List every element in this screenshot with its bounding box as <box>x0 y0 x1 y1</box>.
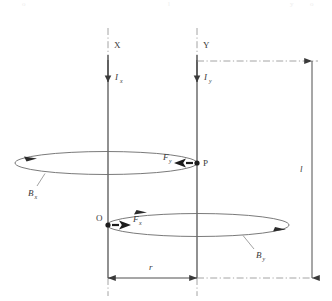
parallel-conductors-diagram: o l y o X Y I x I y B x <box>0 0 332 301</box>
dimension-r: r <box>108 262 197 278</box>
current-label-x: I x <box>114 72 123 84</box>
current-label-y: I y <box>203 72 212 84</box>
force-arrow-fx: F x <box>112 214 142 230</box>
force-arrow-fy: F y <box>162 152 193 168</box>
field-symbol-bx: B <box>28 188 34 198</box>
point-p-marker <box>194 160 199 165</box>
force-subscript-fy: y <box>168 158 172 164</box>
force-symbol-fx: F <box>132 214 139 224</box>
bx-direction-arrowhead <box>24 157 37 162</box>
field-subscript-bx: x <box>34 194 38 200</box>
force-subscript-fx: x <box>138 220 142 226</box>
current-symbol-x: I <box>114 72 119 82</box>
dimension-label-l: l <box>300 164 303 174</box>
dimension-l: l <box>300 61 312 278</box>
svg-text:l: l <box>168 0 170 8</box>
svg-text:o: o <box>22 0 26 8</box>
current-subscript-x: x <box>119 78 123 84</box>
current-subscript-y: y <box>208 78 212 84</box>
current-symbol-y: I <box>203 72 208 82</box>
fy-arrowhead <box>174 158 186 167</box>
svg-text:o: o <box>310 0 314 8</box>
by-leader-line <box>243 236 254 250</box>
force-symbol-fy: F <box>162 152 169 162</box>
conductor-label-y: Y <box>203 40 210 50</box>
conductor-label-x: X <box>114 40 121 50</box>
field-subscript-by: y <box>262 256 266 262</box>
fx-arrowhead <box>119 220 131 229</box>
physics-diagram-container: o l y o X Y I x I y B x <box>0 0 332 301</box>
dimension-label-r: r <box>149 262 153 272</box>
scan-artifact-row: o l y o <box>22 0 314 8</box>
bx-leader-line <box>37 174 45 187</box>
svg-text:y: y <box>290 0 294 8</box>
point-o-marker <box>105 222 110 227</box>
point-label-o: O <box>96 213 103 223</box>
point-label-p: P <box>203 158 208 168</box>
by-direction-arrowhead-front <box>273 227 286 232</box>
field-symbol-by: B <box>256 250 262 260</box>
